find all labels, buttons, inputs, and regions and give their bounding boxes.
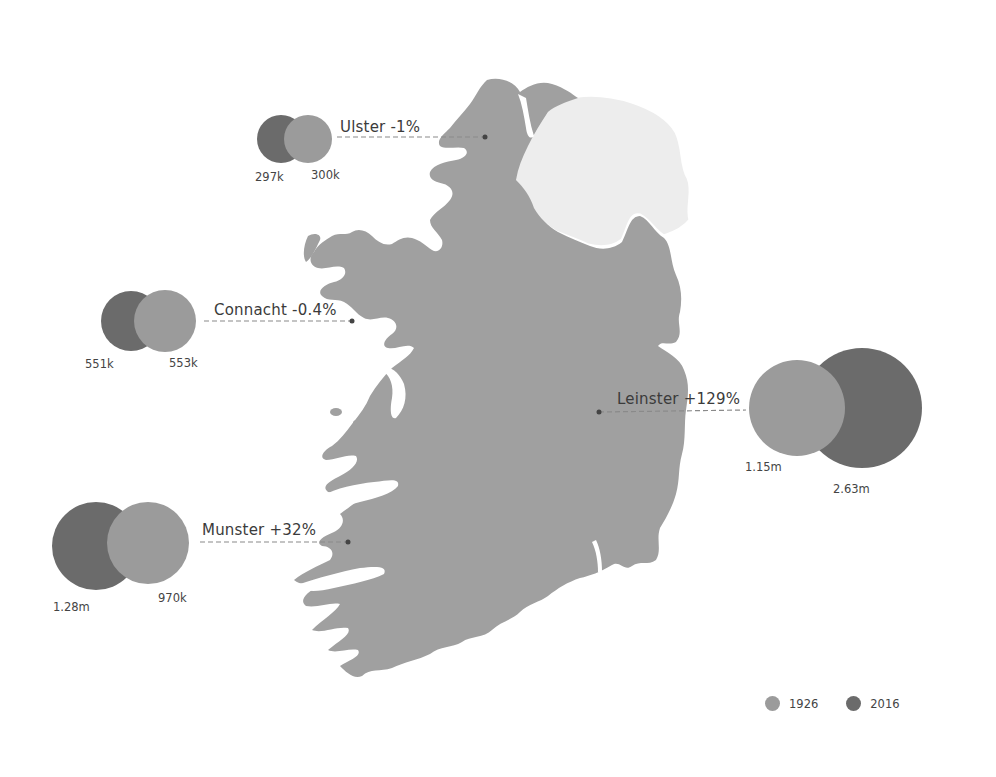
connacht-1926-bubble — [134, 290, 196, 352]
connacht-dot — [350, 319, 355, 324]
munster-1926-value: 970k — [158, 591, 187, 605]
island — [353, 420, 361, 426]
munster-dot — [346, 540, 351, 545]
leinster-1926-bubble — [749, 360, 845, 456]
ulster-1926-value: 300k — [311, 168, 340, 182]
ulster-label: Ulster -1% — [340, 118, 420, 136]
legend: 1926 2016 — [765, 696, 928, 711]
legend-swatch-1926 — [765, 696, 780, 711]
ulster-1926-bubble — [284, 115, 332, 163]
legend-label-1926: 1926 — [789, 697, 818, 711]
leinster-2016-value: 2.63m — [833, 482, 870, 496]
ireland-map — [0, 0, 996, 777]
connacht-label: Connacht -0.4% — [214, 301, 337, 319]
legend-label-2016: 2016 — [870, 697, 899, 711]
ulster-2016-value: 297k — [255, 170, 284, 184]
connacht-1926-value: 553k — [169, 356, 198, 370]
legend-swatch-2016 — [846, 696, 861, 711]
connacht-2016-value: 551k — [85, 357, 114, 371]
munster-label: Munster +32% — [202, 521, 316, 539]
ulster-dot — [483, 135, 488, 140]
leinster-1926-value: 1.15m — [745, 460, 782, 474]
munster-1926-bubble — [107, 502, 189, 584]
legend-item-1926: 1926 — [765, 696, 818, 711]
island — [330, 408, 342, 416]
legend-item-2016: 2016 — [846, 696, 899, 711]
leinster-label: Leinster +129% — [617, 390, 740, 408]
munster-2016-value: 1.28m — [53, 600, 90, 614]
leinster-dot — [597, 410, 602, 415]
